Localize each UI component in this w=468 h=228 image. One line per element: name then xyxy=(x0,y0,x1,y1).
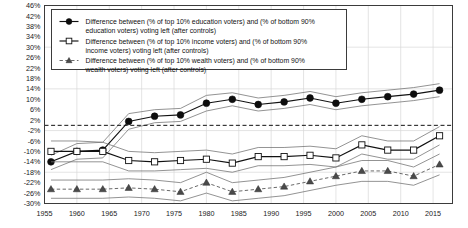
x-axis-tick-label: 1975 xyxy=(166,209,182,218)
data-point-income xyxy=(151,159,157,165)
data-point-wealth xyxy=(306,178,313,184)
legend-label-wealth: wealth voters) voting left (after contro… xyxy=(85,66,207,74)
data-point-education xyxy=(436,87,443,94)
y-axis-tick-label: 30% xyxy=(26,43,41,52)
x-axis-tick-label: 2010 xyxy=(393,209,409,218)
data-point-education xyxy=(203,100,210,107)
legend-label-income: income voters) voting left (after contro… xyxy=(86,47,209,55)
y-axis-tick-label: 46% xyxy=(26,1,41,10)
data-point-education xyxy=(358,96,365,103)
data-point-income xyxy=(229,160,235,166)
data-point-income xyxy=(436,133,442,139)
y-axis-tick-label: 18% xyxy=(26,74,41,83)
data-point-wealth xyxy=(125,184,132,190)
y-axis-tick-label: 34% xyxy=(26,32,41,41)
data-point-income xyxy=(359,142,365,148)
x-axis-tick-label: 1955 xyxy=(37,209,53,218)
series-wealth xyxy=(47,154,443,201)
y-axis-tick-label: -22% xyxy=(24,178,41,187)
legend-label-education: Difference between (% of top 10% educati… xyxy=(86,18,315,26)
y-axis-tick-label: 10% xyxy=(26,95,41,104)
y-axis-tick-label: -6% xyxy=(28,137,41,146)
data-point-income xyxy=(74,148,80,154)
data-point-education xyxy=(384,93,391,100)
y-axis-tick-label: 14% xyxy=(26,84,41,93)
x-axis-tick-label: 1960 xyxy=(69,209,85,218)
x-axis-tick-label: 1980 xyxy=(198,209,214,218)
data-point-income xyxy=(281,154,287,160)
x-axis-tick-label: 1995 xyxy=(296,209,312,218)
chart-container: 46%42%38%34%30%26%22%18%14%10%6%2%-2%-6%… xyxy=(0,0,468,228)
data-point-education xyxy=(177,112,184,119)
data-point-wealth xyxy=(358,167,365,173)
line-chart: 46%42%38%34%30%26%22%18%14%10%6%2%-2%-6%… xyxy=(0,0,468,228)
data-point-income xyxy=(177,157,183,163)
series-education xyxy=(48,84,443,170)
x-axis-tick-label: 2000 xyxy=(328,209,344,218)
x-axis-tick-label: 1970 xyxy=(134,209,150,218)
y-axis-tick-label: -26% xyxy=(24,189,41,198)
data-point-income xyxy=(126,157,132,163)
data-point-income xyxy=(100,148,106,154)
y-axis-tick-label: 26% xyxy=(26,53,41,62)
data-point-education xyxy=(333,100,340,107)
data-point-education xyxy=(281,98,288,105)
y-axis-tick-label: -30% xyxy=(24,199,41,208)
legend-marker-income xyxy=(66,38,72,44)
data-point-wealth xyxy=(203,179,210,185)
y-axis-tick-label: -10% xyxy=(24,147,41,156)
data-point-education xyxy=(255,101,262,108)
data-point-income xyxy=(385,147,391,153)
data-point-education xyxy=(307,95,314,102)
x-axis-tick-label: 1985 xyxy=(231,209,247,218)
x-axis-tick-label: 2015 xyxy=(425,209,441,218)
y-axis-tick-label: -2% xyxy=(28,126,41,135)
data-point-income xyxy=(307,152,313,158)
x-axis-tick-label: 1965 xyxy=(101,209,117,218)
y-axis-tick-label: 38% xyxy=(26,22,41,31)
data-point-wealth xyxy=(436,161,443,167)
data-point-income xyxy=(411,147,417,153)
data-point-wealth xyxy=(177,188,184,194)
data-point-wealth xyxy=(255,186,262,192)
x-axis-tick-label: 2005 xyxy=(360,209,376,218)
y-axis-tick-label: 2% xyxy=(30,116,41,125)
y-axis-tick-label: 6% xyxy=(30,105,41,114)
data-point-education xyxy=(151,113,158,120)
data-point-income xyxy=(333,155,339,161)
series-income xyxy=(48,127,443,173)
y-axis-tick-label: -14% xyxy=(24,157,41,166)
y-axis-tick-label: 42% xyxy=(26,12,41,21)
legend-label-wealth: Difference between (% of top 10% wealth … xyxy=(86,57,305,65)
x-axis-tick-label: 1990 xyxy=(263,209,279,218)
legend-marker-education xyxy=(66,19,72,25)
data-point-education xyxy=(229,96,236,103)
y-axis-tick-label: -18% xyxy=(24,168,41,177)
data-point-income xyxy=(48,148,54,154)
data-point-education xyxy=(410,91,417,98)
y-axis-tick-label: 22% xyxy=(26,64,41,73)
data-point-education xyxy=(125,118,132,125)
data-point-income xyxy=(255,154,261,160)
legend-label-income: Difference between (% of top 10% income … xyxy=(86,38,308,46)
legend-label-education: education voters) voting left (after con… xyxy=(86,27,217,35)
data-point-income xyxy=(203,156,209,162)
